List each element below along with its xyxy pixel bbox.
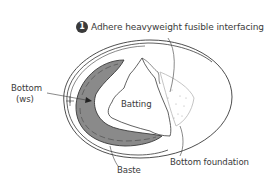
label-bottom-ws-line2: (ws)	[16, 95, 34, 104]
step-number-badge: 1	[76, 21, 88, 33]
label-baste: Baste	[117, 166, 141, 175]
label-bottom-foundation: Bottom foundation	[170, 158, 249, 167]
callout-text: Adhere heavyweight fusible interfacing	[91, 23, 264, 32]
label-bottom-ws-line1: Bottom	[11, 84, 42, 93]
label-batting: Batting	[121, 100, 152, 109]
